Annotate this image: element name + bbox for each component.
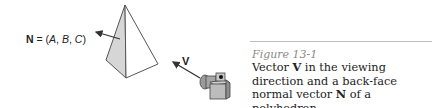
component-b: B — [62, 33, 69, 45]
caption-rule — [250, 41, 432, 42]
pyramid-icon — [106, 5, 158, 78]
caption-bold-v: V — [292, 60, 301, 74]
camera-icon — [200, 73, 230, 99]
pyramid-front-face — [125, 5, 158, 78]
figure-caption: Figure 13-1 Vector V in the viewing dire… — [252, 48, 434, 108]
close-paren: ) — [82, 33, 86, 45]
equals-text: = ( — [34, 33, 49, 45]
view-vector-label: V — [182, 55, 189, 67]
figure-number: Figure 13-1 — [252, 48, 434, 61]
normal-symbol: N — [26, 33, 34, 45]
caption-text: Vector V in the viewing direction and a … — [252, 61, 434, 108]
polyhedron-diagram — [0, 0, 250, 108]
caption-part: Vector — [252, 61, 292, 74]
pyramid-back-face — [106, 5, 126, 78]
caption-bold-n: N — [336, 87, 346, 101]
normal-vector-label: N = (A, B, C) — [26, 33, 86, 45]
